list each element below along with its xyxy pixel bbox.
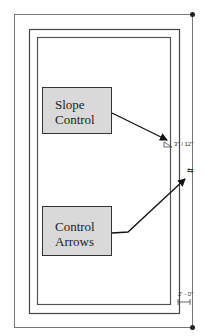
control-arrows-line2: Arrows (55, 234, 111, 249)
control-arrows-line1: Control (55, 219, 111, 234)
inner-wall-outline (38, 38, 171, 305)
outer-roof-outline (15, 15, 193, 328)
slope-control-line1: Slope (55, 97, 111, 112)
slope-leader-arrow (112, 113, 167, 140)
slope-value-label[interactable]: 3" / 12" (174, 141, 193, 147)
slope-control-line2: Control (55, 112, 111, 127)
middle-wall-outline (30, 30, 180, 314)
control-arrows-callout: Control Arrows (42, 206, 112, 256)
flip-arrows-icon[interactable]: ⇆ (187, 166, 194, 175)
slope-control-callout: Slope Control (42, 87, 112, 134)
corner-grip-top[interactable] (190, 12, 195, 17)
roof-plan-diagram (0, 0, 205, 336)
dimension-label[interactable]: 2' - 0" (178, 291, 193, 297)
corner-grip-bottom[interactable] (190, 325, 195, 330)
arrows-leader-arrow (112, 179, 185, 233)
